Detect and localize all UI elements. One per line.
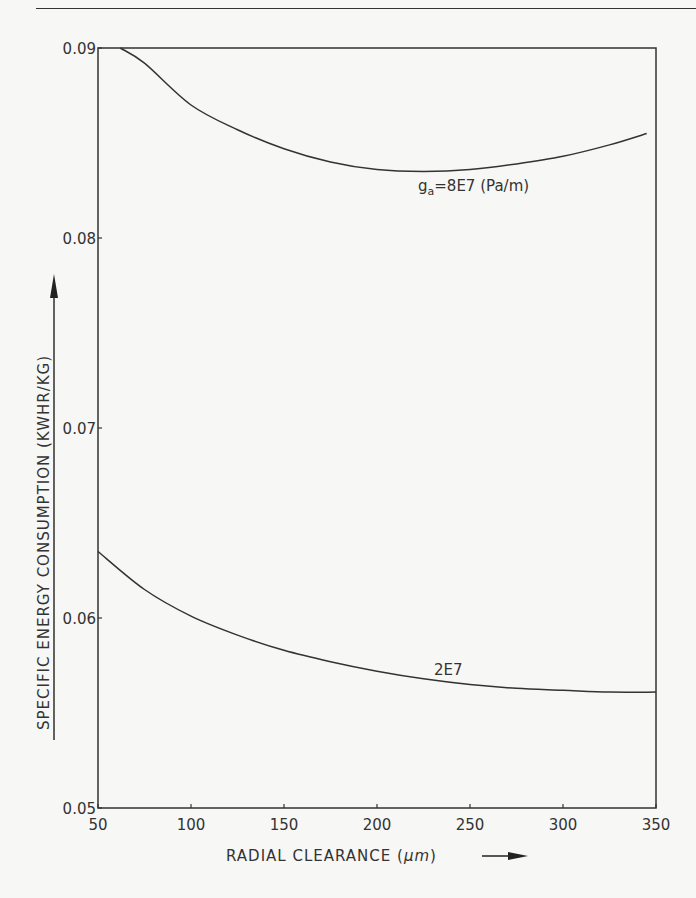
y-tick-label: 0.08	[63, 230, 96, 248]
y-tick-label: 0.06	[63, 610, 96, 628]
axis-tick-labels: 501001502002503003500.050.060.070.080.09	[63, 40, 671, 834]
x-tick-label: 150	[270, 816, 299, 834]
series-label-2e7: 2E7	[434, 661, 463, 679]
y-tick-label: 0.05	[63, 800, 96, 818]
x-tick-label: 300	[549, 816, 578, 834]
x-tick-label: 100	[177, 816, 206, 834]
x-tick-label: 250	[456, 816, 485, 834]
series-line-1	[98, 552, 656, 693]
x-axis-arrow-icon	[482, 852, 528, 860]
x-axis-title: RADIAL CLEARANCE (μm)	[226, 847, 437, 865]
x-tick-label: 50	[88, 816, 107, 834]
data-series	[98, 48, 656, 692]
y-tick-label: 0.09	[63, 40, 96, 58]
plot-frame	[98, 48, 656, 808]
y-tick-label: 0.07	[63, 420, 96, 438]
axis-ticks	[98, 48, 656, 808]
y-axis-title: SPECIFIC ENERGY CONSUMPTION (KWHR/KG)	[35, 355, 53, 730]
series-label-8e7: ga=8E7 (Pa/m)	[418, 177, 529, 198]
x-tick-label: 350	[642, 816, 671, 834]
x-tick-label: 200	[363, 816, 392, 834]
line-chart: 501001502002503003500.050.060.070.080.09…	[0, 0, 696, 898]
series-line-0	[120, 48, 646, 172]
